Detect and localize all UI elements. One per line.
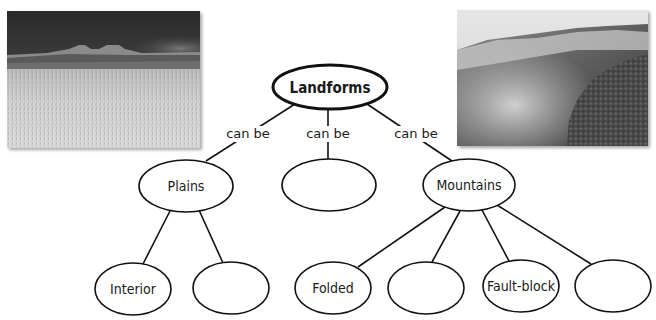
edge-mountains-blank4 [497,205,591,264]
node-blank-middle-shape [282,159,376,211]
node-blank-mountains-2-shape [388,262,464,314]
node-plains-label: Plains [168,178,205,194]
node-landforms[interactable]: Landforms [273,65,387,109]
edge-mountains-folded [358,207,445,267]
node-blank-plains-2-shape [193,262,269,314]
node-blank-middle[interactable] [282,159,376,211]
node-fault-block-label: Fault-block [487,278,556,294]
node-interior[interactable]: Interior [95,263,171,315]
edge-mountains-faultblock [482,210,509,261]
node-interior-label: Interior [110,281,157,297]
concept-map: can be can be can be Landforms Plains Mo… [0,0,656,320]
node-plains[interactable]: Plains [139,160,233,212]
node-blank-mountains-4[interactable] [575,260,651,312]
node-mountains[interactable]: Mountains [423,159,515,211]
node-folded-label: Folded [312,280,354,296]
node-folded[interactable]: Folded [295,262,371,314]
edge-label-middle: can be [306,126,350,141]
edge-plains-blank [199,210,223,263]
edge-labels: can be can be can be [226,126,438,143]
edge-label-mountains: can be [394,126,438,141]
node-blank-mountains-4-shape [575,260,651,312]
node-fault-block[interactable]: Fault-block [483,260,559,312]
edge-plains-interior [143,211,170,264]
node-blank-mountains-2[interactable] [388,262,464,314]
edge-label-plains: can be [226,126,270,141]
edge-mountains-blank2 [432,211,460,262]
node-blank-plains-2[interactable] [193,262,269,314]
node-mountains-label: Mountains [436,177,501,193]
node-landforms-label: Landforms [290,79,371,97]
